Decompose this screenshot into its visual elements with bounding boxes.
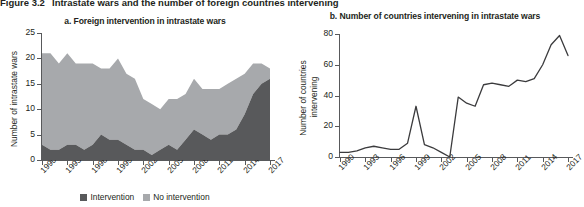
y-tick-label: 0 xyxy=(13,154,35,164)
legend-item-no-intervention: No intervention xyxy=(143,192,209,202)
y-tick-label: 20 xyxy=(311,120,333,130)
panel-a-legend: Intervention No intervention xyxy=(0,192,290,202)
legend-label-intervention: Intervention xyxy=(90,192,134,202)
y-tick-label: 80 xyxy=(311,28,333,38)
panel-a-area-svg xyxy=(42,33,271,161)
y-tick-label: 15 xyxy=(13,78,35,88)
chart-panel-a: a. Foreign intervention in intrastate wa… xyxy=(0,0,290,207)
legend-label-no-intervention: No intervention xyxy=(153,192,209,202)
legend-swatch-intervention xyxy=(80,194,87,201)
panel-b-plot-area: 0204060801990199319961999200220052008201… xyxy=(340,34,568,157)
panel-b-title: b. Number of countries intervening in in… xyxy=(290,11,580,21)
panel-b-line-svg xyxy=(340,34,569,158)
y-tick-label: 25 xyxy=(13,27,35,37)
y-tick-label: 60 xyxy=(311,59,333,69)
panel-b-y-axis-label-line1: Number of countries xyxy=(298,40,308,156)
y-tick-label: 0 xyxy=(311,151,333,161)
y-tick-label: 40 xyxy=(311,90,333,100)
legend-swatch-no-intervention xyxy=(143,194,150,201)
panel-a-title: a. Foreign intervention in intrastate wa… xyxy=(0,16,290,26)
panel-a-plot-area: 0510152025199019931996199920022005200820… xyxy=(42,33,270,160)
y-tick-label: 20 xyxy=(13,52,35,62)
legend-item-intervention: Intervention xyxy=(80,192,134,202)
y-tick-label: 10 xyxy=(13,103,35,113)
y-tick-label: 5 xyxy=(13,129,35,139)
